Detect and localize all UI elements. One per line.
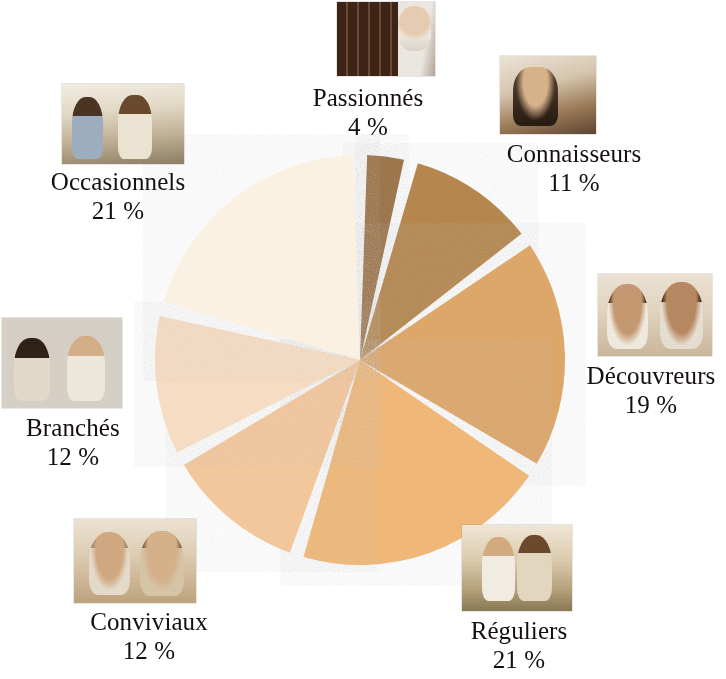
slice-label-occasionnels-name: Occasionnels — [51, 168, 186, 195]
slice-label-reguliers-value: 21 % — [424, 646, 614, 675]
slice-label-reguliers-name: Réguliers — [471, 617, 568, 644]
slice-label-occasionnels: Occasionnels 21 % — [12, 168, 224, 225]
man-tasting-wine-photo — [500, 56, 596, 134]
slice-label-decouvreurs-value: 19 % — [576, 391, 726, 420]
slice-label-connaisseurs: Connaisseurs 11 % — [456, 140, 692, 197]
group-dinner-party-photo — [62, 84, 184, 164]
slice-label-conviviaux: Conviviaux 12 % — [44, 608, 254, 665]
slice-label-conviviaux-name: Conviviaux — [90, 608, 208, 635]
couple-toasting-red-wine-photo — [598, 274, 712, 356]
slice-label-conviviaux-value: 12 % — [44, 637, 254, 666]
slice-label-passionnes: Passionnés 4 % — [268, 84, 468, 141]
slice-label-connaisseurs-value: 11 % — [456, 169, 692, 198]
slice-label-decouvreurs: Découvreurs 19 % — [576, 362, 726, 419]
pie-chart: Passionnés 4 % Connaisseurs 11 % Découvr… — [0, 0, 726, 679]
slice-label-branches-name: Branchés — [26, 414, 120, 441]
slice-label-branches-value: 12 % — [0, 443, 146, 472]
slice-label-branches: Branchés 12 % — [0, 414, 146, 471]
slice-label-passionnes-value: 4 % — [268, 113, 468, 142]
couple-outdoor-meal-photo — [462, 525, 572, 611]
friends-at-bar-photo — [2, 318, 122, 408]
wine-cellar-photo — [337, 2, 435, 76]
slice-label-connaisseurs-name: Connaisseurs — [507, 140, 642, 167]
slice-label-passionnes-name: Passionnés — [313, 84, 424, 111]
slice-label-occasionnels-value: 21 % — [12, 197, 224, 226]
older-couple-toasting-photo — [74, 519, 196, 603]
slice-label-decouvreurs-name: Découvreurs — [587, 362, 716, 389]
slice-label-reguliers: Réguliers 21 % — [424, 617, 614, 674]
